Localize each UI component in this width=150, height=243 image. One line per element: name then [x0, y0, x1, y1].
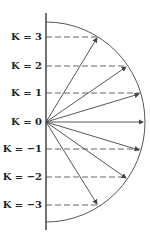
label-k-0: K = 0 [0, 116, 42, 128]
label-k-minus-2: K = −2 [0, 171, 42, 183]
label-k-3: K = 3 [0, 31, 42, 43]
label-k-2: K = 2 [0, 60, 42, 72]
angular-momentum-vectors [46, 38, 143, 204]
label-k-minus-1: K = −1 [0, 143, 42, 155]
label-k-minus-3: K = −3 [0, 199, 42, 211]
label-k-1: K = 1 [0, 87, 42, 99]
